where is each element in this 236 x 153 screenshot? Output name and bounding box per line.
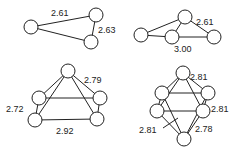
atom-triangle-0: [24, 20, 38, 34]
atom-octahedron-5: [177, 132, 191, 146]
atom-square-pyramid-3: [28, 113, 42, 127]
distance-label-butterfly-0: 2.61: [196, 17, 214, 27]
atom-triangle-2: [84, 35, 98, 49]
atom-butterfly-2: [165, 30, 179, 44]
atom-square-pyramid-2: [93, 91, 107, 105]
atom-octahedron-4: [196, 104, 210, 118]
atom-triangle-1: [89, 8, 103, 22]
distance-label-square-pyramid-2: 2.92: [56, 126, 74, 136]
distance-label-triangle-1: 2.63: [98, 25, 116, 35]
atom-square-pyramid-4: [90, 112, 104, 126]
distance-label-butterfly-1: 3.00: [174, 44, 192, 54]
atom-butterfly-0: [178, 10, 192, 24]
bond-octahedron-4: [162, 93, 184, 139]
distance-label-octahedron-1: 2.81: [211, 104, 229, 114]
distance-label-triangle-0: 2.61: [51, 8, 69, 18]
atom-square-pyramid-1: [32, 91, 46, 105]
atom-octahedron-2: [201, 86, 215, 100]
atom-square-pyramid-0: [61, 64, 75, 78]
atom-butterfly-3: [207, 30, 221, 44]
atom-octahedron-0: [176, 66, 190, 80]
atom-octahedron-3: [150, 104, 164, 118]
atom-octahedron-1: [155, 86, 169, 100]
bond-triangle-1: [31, 27, 91, 42]
distance-label-octahedron-3: 2.78: [195, 124, 213, 134]
distance-label-square-pyramid-1: 2.72: [6, 104, 24, 114]
distance-label-octahedron-0: 2.81: [190, 72, 208, 82]
bond-square-pyramid-5: [35, 119, 97, 120]
atom-butterfly-1: [134, 28, 148, 42]
distance-label-octahedron-2: 2.81: [139, 125, 157, 135]
distance-label-square-pyramid-0: 2.79: [84, 75, 102, 85]
cluster-diagram: 2.612.632.613.002.792.722.922.812.812.81…: [0, 0, 236, 153]
